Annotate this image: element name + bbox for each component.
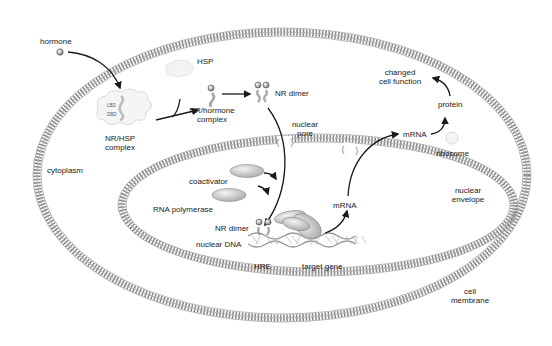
label-hormone: hormone (40, 37, 72, 46)
label-changed-line2: cell function (376, 77, 424, 86)
label-nuclear-pore-line1: nuclear (288, 120, 322, 129)
label-nr-hsp-complex: NR/HSP complex (100, 134, 140, 152)
hormone-entry-arrow (68, 52, 120, 88)
label-nr-hsp-line2: complex (100, 143, 140, 152)
nuclear-import-arrow (265, 108, 285, 225)
nr-hsp-complex-icon (97, 89, 152, 125)
label-dbd: DBD (107, 112, 117, 117)
label-changed-line1: changed (376, 68, 424, 77)
label-nuclear-env-line1: nuclear (448, 186, 488, 195)
transcription-arrow (325, 211, 347, 233)
label-nuclear-pore-line2: pore (288, 129, 322, 138)
label-nr-hsp-line1: NR/HSP (100, 134, 140, 143)
label-nr-dimer-cyto: NR dimer (275, 89, 309, 98)
label-rna-polymerase: RNA polymerase (153, 205, 213, 214)
label-target-gene: target gene (302, 262, 342, 271)
label-cell-mem-line1: cell (448, 287, 492, 296)
coactivator-icon (230, 165, 264, 178)
label-nuclear-dna: nuclear DNA (196, 240, 241, 249)
label-cytoplasm: cytoplasm (47, 166, 83, 175)
label-ribosome: ribosome (436, 149, 469, 158)
label-changed-cell-function: changed cell function (376, 68, 424, 86)
label-lbd: LBD (107, 103, 116, 108)
label-coactivator: coactivator (189, 177, 228, 186)
label-hre: HRE (254, 262, 271, 271)
label-mrna-cyto: mRNA (403, 130, 427, 139)
nr-dimer-cyto-icon (255, 82, 269, 102)
polymerase-arrow (258, 186, 268, 194)
cell-membrane (33, 28, 531, 322)
ribosome-icon (446, 132, 458, 144)
label-cell-mem-line2: membrane (448, 296, 492, 305)
label-protein: protein (438, 100, 462, 109)
label-nuclear-pore: nuclear pore (288, 120, 322, 138)
label-nuclear-envelope: nuclear envelope (448, 186, 488, 204)
nuclear-receptor-diagram: hormone HSP LBD DBD NR/HSP complex NR/ho… (0, 0, 552, 346)
nr-hormone-complex-icon (208, 85, 214, 107)
coactivator-arrow (264, 173, 276, 179)
label-nr-hormone-line1: NR/hormone (186, 106, 238, 115)
label-hsp: HSP (197, 57, 213, 66)
label-nr-hormone-line2: complex (186, 115, 238, 124)
hormone-icon (57, 49, 63, 55)
label-cell-membrane: cell membrane (448, 287, 492, 305)
function-arrow (433, 78, 450, 96)
label-nuclear-env-line2: envelope (448, 195, 488, 204)
rna-polymerase-icon (212, 189, 246, 202)
label-nr-hormone-complex: NR/hormone complex (186, 106, 238, 124)
label-mrna-nuclear: mRNA (333, 201, 357, 210)
hsp-icon (166, 60, 194, 77)
translation-arrow (431, 118, 445, 134)
label-nr-dimer-nuclear: NR dimer (215, 224, 249, 233)
